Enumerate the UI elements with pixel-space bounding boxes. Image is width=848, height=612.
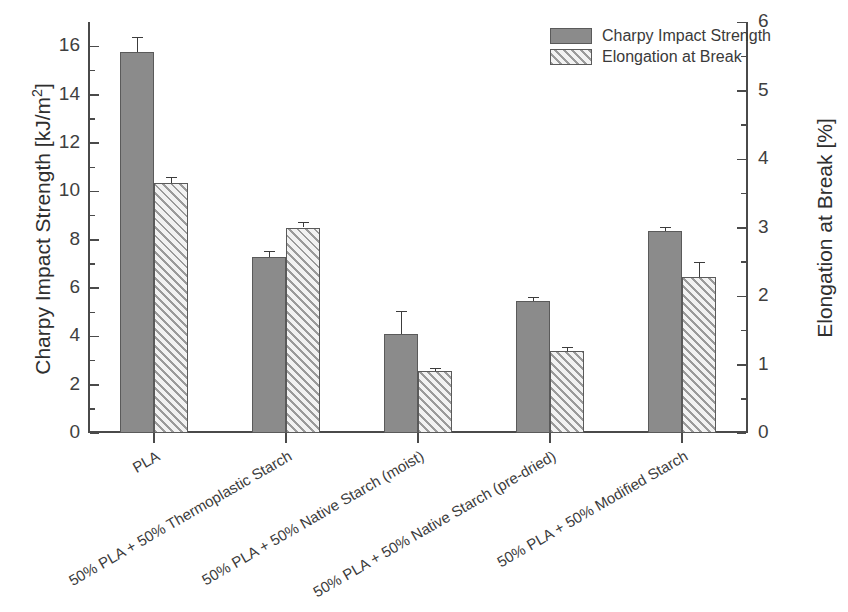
legend-label-charpy: Charpy Impact Strength (602, 27, 771, 45)
x-axis-tick (549, 433, 551, 443)
right-axis-ticklabel: 2 (758, 284, 788, 306)
right-axis-minor-tick (741, 193, 746, 195)
left-axis-minor-tick (90, 360, 95, 362)
error-bar-cap-elongation (562, 347, 573, 348)
right-axis-ticklabel: 3 (758, 216, 788, 238)
left-axis-minor-tick (90, 70, 95, 72)
right-axis-major-tick (737, 159, 746, 161)
right-axis-major-tick (737, 433, 746, 435)
bar-charpy-impact-strength (384, 334, 418, 433)
left-axis-major-tick (90, 142, 99, 144)
right-axis-minor-tick (741, 398, 746, 400)
error-bar-cap-elongation (166, 177, 177, 178)
left-axis-ticklabel: 16 (42, 34, 80, 56)
bar-elongation-at-break (550, 351, 584, 433)
right-axis-major-tick (737, 296, 746, 298)
left-axis-minor-tick (90, 312, 95, 314)
bar-elongation-at-break (154, 183, 188, 433)
right-axis-minor-tick (741, 261, 746, 263)
left-axis-ticklabel: 8 (42, 228, 80, 250)
chart-figure: Charpy Impact Strength [kJ/m2] Elongatio… (0, 0, 848, 612)
right-axis-major-tick (737, 22, 746, 24)
legend-entry: Elongation at Break (550, 47, 771, 66)
right-axis-major-tick (737, 90, 746, 92)
left-axis-major-tick (90, 46, 99, 48)
right-axis-major-tick (737, 364, 746, 366)
right-axis-minor-tick (741, 330, 746, 332)
bar-charpy-impact-strength (648, 231, 682, 433)
x-axis-tick (153, 433, 155, 443)
right-axis-ticklabel: 4 (758, 147, 788, 169)
bar-charpy-impact-strength (120, 52, 154, 433)
left-axis-minor-tick (90, 215, 95, 217)
left-axis-major-tick (90, 384, 99, 386)
error-bar-cap-charpy (264, 251, 275, 252)
figure-caption (8, 600, 848, 612)
left-axis-major-tick (90, 239, 99, 241)
legend-swatch-elongation-icon (550, 49, 592, 65)
left-axis-minor-tick (90, 118, 95, 120)
bar-elongation-at-break (682, 277, 716, 433)
left-axis-spine (88, 22, 90, 433)
bar-charpy-impact-strength (252, 257, 286, 433)
x-axis-tick (681, 433, 683, 443)
left-axis-ticklabel: 14 (42, 83, 80, 105)
left-axis-minor-tick (90, 408, 95, 410)
error-bar-cap-charpy (528, 297, 539, 298)
legend-label-elongation: Elongation at Break (602, 48, 742, 66)
bar-elongation-at-break (418, 371, 452, 433)
left-axis-major-tick (90, 433, 99, 435)
right-axis-ticklabel: 5 (758, 79, 788, 101)
right-axis-spine (746, 22, 748, 433)
error-bar-cap-charpy (132, 37, 143, 38)
left-axis-ticklabel: 10 (42, 179, 80, 201)
right-axis-title: Elongation at Break [%] (813, 58, 837, 398)
x-axis-tick (417, 433, 419, 443)
error-bar-charpy (401, 311, 402, 334)
left-axis-ticklabel: 6 (42, 276, 80, 298)
left-axis-major-tick (90, 336, 99, 338)
error-bar-elongation (699, 262, 700, 277)
x-axis-tick (285, 433, 287, 443)
left-axis-minor-tick (90, 167, 95, 169)
error-bar-cap-charpy (396, 311, 407, 312)
bar-charpy-impact-strength (516, 301, 550, 433)
error-bar-charpy (137, 37, 138, 53)
left-axis-ticklabel: 0 (42, 421, 80, 443)
bar-elongation-at-break (286, 228, 320, 434)
error-bar-cap-elongation (430, 368, 441, 369)
right-axis-major-tick (737, 227, 746, 229)
right-axis-ticklabel: 0 (758, 421, 788, 443)
error-bar-cap-elongation (298, 222, 309, 223)
legend-swatch-charpy-icon (550, 28, 592, 44)
chart-legend: Charpy Impact Strength Elongation at Bre… (550, 26, 771, 68)
error-bar-cap-elongation (694, 262, 705, 263)
right-axis-minor-tick (741, 124, 746, 126)
plot-area (88, 22, 748, 433)
x-axis-ticklabel: PLA (0, 447, 162, 612)
legend-entry: Charpy Impact Strength (550, 26, 771, 45)
left-axis-major-tick (90, 94, 99, 96)
left-axis-ticklabel: 12 (42, 131, 80, 153)
left-axis-minor-tick (90, 263, 95, 265)
left-axis-major-tick (90, 287, 99, 289)
left-axis-ticklabel: 4 (42, 324, 80, 346)
right-axis-ticklabel: 1 (758, 353, 788, 375)
left-axis-ticklabel: 2 (42, 373, 80, 395)
left-axis-major-tick (90, 191, 99, 193)
error-bar-cap-charpy (660, 227, 671, 228)
